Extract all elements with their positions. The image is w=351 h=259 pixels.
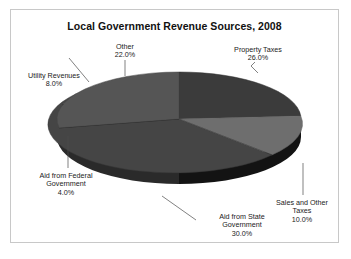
- label-utility-revenues: Utility Revenues 8.0%: [17, 72, 91, 89]
- slice-property-taxes: [179, 72, 301, 119]
- label-aid-federal-government: Aid from Federal Government 4.0%: [19, 172, 113, 197]
- label-utility-revenues-value: 8.0%: [17, 80, 91, 88]
- label-other-value: 22.0%: [99, 51, 151, 59]
- label-property-taxes: Property Taxes 26.0%: [217, 46, 299, 63]
- leader-state: [162, 196, 196, 220]
- label-sales-value: 10.0%: [263, 216, 341, 224]
- label-other: Other 22.0%: [99, 43, 151, 60]
- label-sales-other-taxes: Sales and Other Taxes 10.0%: [263, 199, 341, 224]
- chart-card: Local Government Revenue Sources, 2008: [10, 9, 339, 243]
- label-aid-state-value: 30.0%: [200, 230, 284, 238]
- leader-property-taxes: [251, 62, 258, 73]
- label-aid-federal-value: 4.0%: [19, 189, 113, 197]
- label-property-taxes-value: 26.0%: [217, 54, 299, 62]
